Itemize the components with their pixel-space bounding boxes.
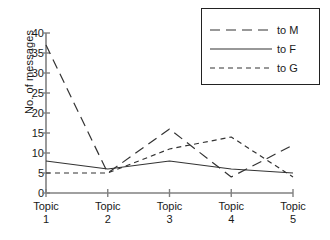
x-tick-label: Topic4	[203, 200, 259, 226]
x-tick-label: Topic1	[18, 200, 74, 226]
legend-item-to-m: to M	[202, 23, 321, 37]
x-tick-label-name: Topic	[80, 200, 136, 213]
x-tick-label-name: Topic	[18, 200, 74, 213]
x-tick-label-number: 2	[80, 213, 136, 226]
legend-item-to-g: to G	[202, 61, 321, 75]
line-chart: No. of messages 0510152025303540 Topic1T…	[0, 0, 330, 240]
x-tick-label-number: 1	[18, 213, 74, 226]
legend-swatch	[210, 24, 272, 36]
legend-swatch	[210, 43, 272, 55]
x-tick-label-number: 4	[203, 213, 259, 226]
legend: to Mto Fto G	[201, 8, 320, 85]
legend-swatch	[210, 62, 272, 74]
legend-label: to M	[277, 24, 298, 36]
x-tick-label-name: Topic	[203, 200, 259, 213]
x-tick-label: Topic2	[80, 200, 136, 226]
x-tick-label: Topic5	[265, 200, 321, 226]
legend-label: to F	[277, 43, 296, 55]
legend-item-to-f: to F	[202, 42, 321, 56]
x-tick-label-name: Topic	[265, 200, 321, 213]
x-tick-label-number: 5	[265, 213, 321, 226]
legend-label: to G	[277, 62, 298, 74]
x-tick-label: Topic3	[142, 200, 198, 226]
x-tick-label-number: 3	[142, 213, 198, 226]
x-tick-label-name: Topic	[142, 200, 198, 213]
